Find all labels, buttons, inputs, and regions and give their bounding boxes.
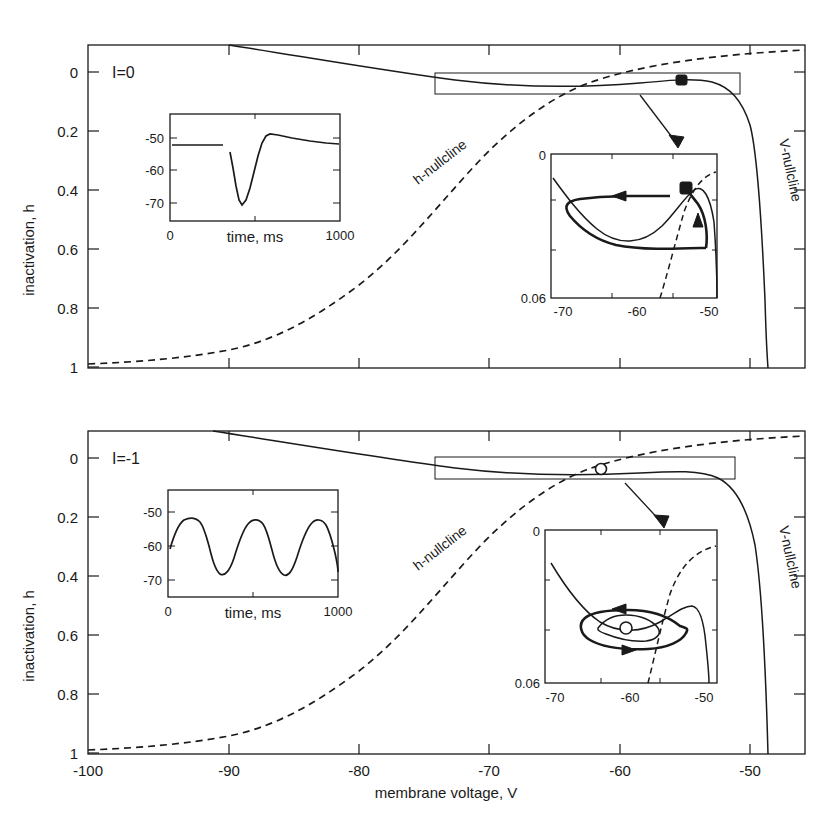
equilibrium-marker-stable-top: [676, 75, 687, 85]
ts-top-ytick-m70: -70: [145, 196, 164, 211]
timeseries-inset-top: -50 -60 -70 0 1000 time, ms: [145, 114, 354, 245]
ts-bottom-xtick-1000: 1000: [324, 604, 353, 619]
phase-bottom-arrow-right: [622, 645, 636, 655]
panel-top-current-label: I=0: [112, 64, 135, 81]
panel-top-ytick-0p4: 0.4: [57, 182, 78, 199]
panel-bottom-ytick-0p4: 0.4: [57, 568, 78, 585]
v-nullcline-label-top: V-nullcline: [776, 137, 805, 203]
panel-top-yaxis-title: inactivation, h: [20, 204, 37, 296]
ts-top-xtick-0: 0: [166, 228, 173, 243]
phase-top-ytick-0p06: 0.06: [521, 291, 546, 306]
phase-top-xtick-m70: -70: [554, 304, 573, 319]
phase-bottom-xtick-m60: -60: [621, 690, 640, 705]
ts-bottom-xaxis-title: time, ms: [225, 604, 282, 621]
panel-bottom-yaxis-title: inactivation, h: [20, 590, 37, 682]
panel-bottom-ytick-0p6: 0.6: [57, 627, 78, 644]
xtick-m60: -60: [609, 762, 631, 779]
panel-top-frame: [88, 45, 805, 368]
phase-top-equilibrium-stable: [680, 182, 692, 194]
phase-top-xtick-m60: -60: [628, 304, 647, 319]
h-nullcline-label-bottom: h-nullcline: [410, 522, 470, 574]
timeseries-inset-bottom-frame: [168, 490, 338, 597]
panel-top-ytick-0p6: 0.6: [57, 241, 78, 258]
ts-bottom-ytick-m50: -50: [143, 505, 162, 520]
panel-bottom-ytick-0: 0: [70, 450, 78, 467]
h-nullcline-label-top: h-nullcline: [410, 136, 470, 188]
panel-bottom: 0 0.2 0.4 0.6 0.8 1 inactivation, h I=-1…: [20, 431, 805, 762]
panel-top: 0 0.2 0.4 0.6 0.8 1 inactivation, h I=0: [20, 45, 805, 376]
panel-top-leader-arrow: [640, 95, 684, 148]
phase-bottom-ytick-0p06: 0.06: [515, 676, 540, 691]
xtick-m70: -70: [478, 762, 500, 779]
ts-top-ytick-m60: -60: [145, 163, 164, 178]
panel-top-ytick-1: 1: [70, 359, 78, 376]
figure-root: 0 0.2 0.4 0.6 0.8 1 inactivation, h I=0: [0, 0, 840, 824]
panel-top-ytick-0p2: 0.2: [57, 123, 78, 140]
panel-top-x-ticks: [229, 45, 750, 368]
xtick-m100: -100: [73, 762, 103, 779]
panel-top-ytick-0p8: 0.8: [57, 300, 78, 317]
v-nullcline-top: [229, 45, 768, 368]
panel-bottom-ytick-0p8: 0.8: [57, 686, 78, 703]
ts-top-trace: [172, 134, 339, 205]
equilibrium-marker-unstable-bottom: [596, 464, 607, 475]
phase-top-xtick-m50: -50: [700, 304, 719, 319]
phase-bottom-arrow-left: [612, 604, 626, 614]
phase-inset-top: 0 0.06 -70 -60 -50: [521, 148, 719, 319]
main-x-axis-labels: -100 -90 -80 -70 -60 -50 membrane voltag…: [73, 762, 761, 801]
phase-plane-figure: 0 0.2 0.4 0.6 0.8 1 inactivation, h I=0: [0, 0, 840, 824]
ts-bottom-ytick-m70: -70: [143, 573, 162, 588]
panel-bottom-zoom-rect: [435, 457, 735, 479]
panel-bottom-y-ticks: [88, 458, 99, 753]
panel-top-ytick-0: 0: [70, 64, 78, 81]
panel-bottom-ytick-0p2: 0.2: [57, 509, 78, 526]
panel-bottom-ytick-1: 1: [70, 745, 78, 762]
phase-inset-top-frame: [551, 154, 717, 298]
panel-bottom-current-label: I=-1: [112, 450, 140, 467]
v-nullcline-label-bottom: V-nullcline: [776, 524, 805, 590]
phase-bottom-equilibrium-unstable: [620, 622, 632, 634]
ts-top-xtick-1000: 1000: [326, 228, 355, 243]
h-nullcline-top: [88, 50, 805, 364]
xtick-m80: -80: [348, 762, 370, 779]
phase-inset-bottom: 0 0.06 -70 -60 -50: [515, 524, 717, 705]
ts-bottom-ytick-m60: -60: [143, 539, 162, 554]
phase-top-arrow-up: [693, 213, 703, 227]
panel-bottom-leader-arrow: [625, 483, 669, 528]
ts-top-ytick-m50: -50: [145, 131, 164, 146]
xtick-m50: -50: [739, 762, 761, 779]
main-xaxis-title: membrane voltage, V: [375, 784, 518, 801]
timeseries-inset-bottom: -50 -60 -70 0 1000 time, ms: [143, 490, 352, 621]
ts-bottom-trace: [170, 518, 338, 575]
panel-top-y-ticks: [88, 72, 99, 367]
ts-bottom-xtick-0: 0: [164, 604, 171, 619]
phase-bottom-xtick-m70: -70: [546, 690, 565, 705]
ts-top-xaxis-title: time, ms: [227, 228, 284, 245]
xtick-m90: -90: [218, 762, 240, 779]
phase-bottom-xtick-m50: -50: [695, 690, 714, 705]
phase-bottom-ytick-0: 0: [533, 524, 540, 539]
phase-top-arrow-left: [612, 191, 626, 201]
phase-top-ytick-0: 0: [539, 148, 546, 163]
